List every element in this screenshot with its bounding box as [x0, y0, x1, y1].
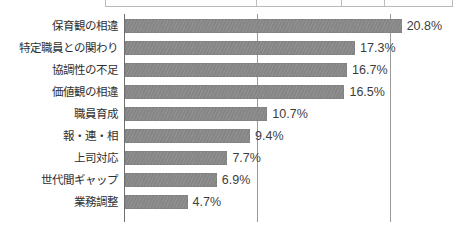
bar	[125, 41, 355, 55]
bar-value-label: 16.5%	[344, 81, 384, 103]
bar-track: 7.7%	[125, 147, 455, 169]
category-label: 価値観の相違	[52, 81, 118, 103]
bar	[125, 19, 402, 33]
bar-row: 世代間ギャップ6.9%	[0, 169, 455, 191]
bar-row: 報・連・相9.4%	[0, 125, 455, 147]
bar-row: 価値観の相違16.5%	[0, 81, 455, 103]
bar-value-label: 10.7%	[267, 103, 307, 125]
bar-row: 協調性の不足16.7%	[0, 59, 455, 81]
bar-rows: 保育観の相違20.8%特定職員との関わり17.3%協調性の不足16.7%価値観の…	[0, 15, 455, 213]
bar	[125, 195, 188, 209]
bar-value-label: 16.7%	[347, 59, 387, 81]
bar-row: 上司対応7.7%	[0, 147, 455, 169]
category-label: 報・連・相	[63, 125, 118, 147]
bar	[125, 151, 227, 165]
bar	[125, 63, 347, 77]
bar-row: 保育観の相違20.8%	[0, 15, 455, 37]
category-label: 上司対応	[74, 147, 118, 169]
bar-value-label: 20.8%	[402, 15, 442, 37]
bar-value-label: 6.9%	[217, 169, 251, 191]
category-label: 業務調整	[74, 191, 118, 213]
horizontal-bar-chart: 保育観の相違20.8%特定職員との関わり17.3%協調性の不足16.7%価値観の…	[0, 0, 455, 241]
category-label: 特定職員との関わり	[19, 37, 118, 59]
bar-value-label: 17.3%	[355, 37, 395, 59]
bar-track: 10.7%	[125, 103, 455, 125]
category-label: 保育観の相違	[52, 15, 118, 37]
bar-track: 9.4%	[125, 125, 455, 147]
bar-track: 20.8%	[125, 15, 455, 37]
category-label: 職員育成	[74, 103, 118, 125]
bar-value-label: 9.4%	[250, 125, 284, 147]
bar-row: 職員育成10.7%	[0, 103, 455, 125]
bar-track: 17.3%	[125, 37, 455, 59]
bar-row: 業務調整4.7%	[0, 191, 455, 213]
category-label: 協調性の不足	[52, 59, 118, 81]
bar-row: 特定職員との関わり17.3%	[0, 37, 455, 59]
bar-value-label: 4.7%	[188, 191, 222, 213]
bar-track: 6.9%	[125, 169, 455, 191]
category-label: 世代間ギャップ	[41, 169, 118, 191]
bar	[125, 173, 217, 187]
bar-track: 4.7%	[125, 191, 455, 213]
bar	[125, 107, 267, 121]
bar-value-label: 7.7%	[227, 147, 261, 169]
bar-track: 16.7%	[125, 59, 455, 81]
bar-track: 16.5%	[125, 81, 455, 103]
bar	[125, 85, 344, 99]
bar	[125, 129, 250, 143]
